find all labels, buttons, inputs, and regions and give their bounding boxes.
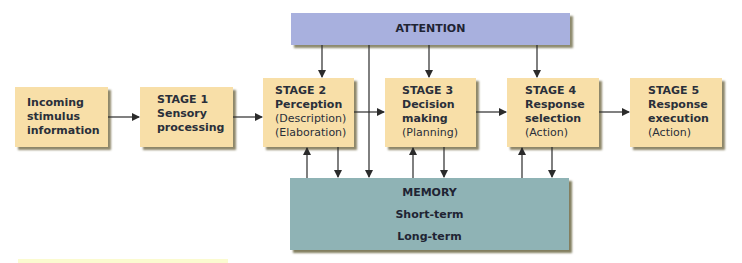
highlight-strip [18, 259, 228, 263]
connector-arrows [0, 0, 742, 263]
